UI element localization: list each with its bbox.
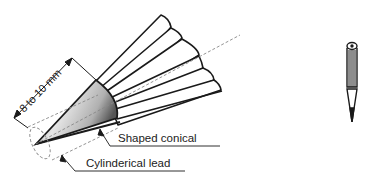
pencil-icon xyxy=(347,43,357,123)
callout-cylindrical-lead: Cylinderical lead xyxy=(86,157,170,169)
callout-shaped-conical: Shaped conical xyxy=(118,132,197,144)
pencil-diagram: 8 to 10 mm Shaped conical Cylinderical l… xyxy=(0,0,377,182)
dimension-label: 8 to 10 mm xyxy=(17,66,64,114)
